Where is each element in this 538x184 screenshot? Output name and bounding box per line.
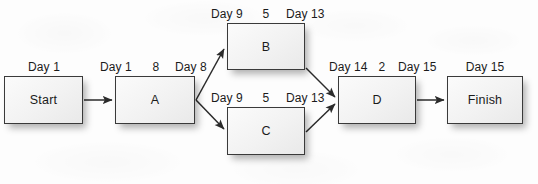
node-d[interactable]: D bbox=[338, 76, 416, 124]
node-c-duration-label: 5 bbox=[263, 91, 270, 105]
node-b[interactable]: B bbox=[227, 23, 305, 70]
node-a-start-date-label: Day 1 bbox=[100, 60, 132, 74]
node-b-label: B bbox=[262, 40, 271, 54]
node-start[interactable]: Start bbox=[4, 76, 83, 124]
node-b-duration-label: 5 bbox=[263, 7, 270, 21]
node-a-duration-label: 8 bbox=[153, 60, 160, 74]
node-c-label: C bbox=[261, 124, 270, 138]
node-d-start-date-label: Day 14 bbox=[329, 60, 368, 74]
edge-c-to-d bbox=[306, 104, 335, 132]
node-a-label: A bbox=[151, 93, 160, 107]
node-d-label: D bbox=[372, 93, 381, 107]
node-finish[interactable]: Finish bbox=[447, 76, 523, 124]
network-diagram-canvas: Day 1 Start Day 1 8 Day 8 A Day 9 5 Day … bbox=[0, 0, 538, 184]
node-c-finish-date-label: Day 13 bbox=[286, 91, 325, 105]
node-d-duration-label: 2 bbox=[379, 60, 386, 74]
node-b-finish-date-label: Day 13 bbox=[286, 7, 325, 21]
node-finish-start-date-label: Day 15 bbox=[466, 60, 505, 74]
start-node-start-date-label: Day 1 bbox=[28, 60, 60, 74]
node-d-finish-date-label: Day 15 bbox=[398, 60, 437, 74]
node-c-start-date-label: Day 9 bbox=[211, 91, 243, 105]
node-finish-label: Finish bbox=[468, 93, 503, 107]
node-a-finish-date-label: Day 8 bbox=[175, 60, 207, 74]
node-a[interactable]: A bbox=[115, 76, 195, 124]
node-b-start-date-label: Day 9 bbox=[211, 7, 243, 21]
node-start-label: Start bbox=[30, 93, 57, 107]
node-c[interactable]: C bbox=[227, 107, 305, 155]
